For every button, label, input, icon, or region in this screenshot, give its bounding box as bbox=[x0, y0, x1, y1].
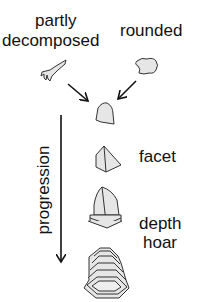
rounded-grain-icon bbox=[136, 58, 158, 74]
arrow-from-decomposed-icon bbox=[68, 84, 88, 101]
snow-metamorphism-diagram bbox=[0, 0, 213, 302]
arrow-from-rounded-icon bbox=[118, 81, 136, 99]
partly-decomposed-crystal-icon bbox=[41, 60, 66, 81]
depth-hoar-cup-crystal-icon bbox=[84, 248, 129, 298]
depth-hoar-crystal-icon bbox=[88, 187, 122, 228]
transitional-grain-icon bbox=[96, 103, 114, 124]
faceted-crystal-icon bbox=[96, 146, 121, 172]
